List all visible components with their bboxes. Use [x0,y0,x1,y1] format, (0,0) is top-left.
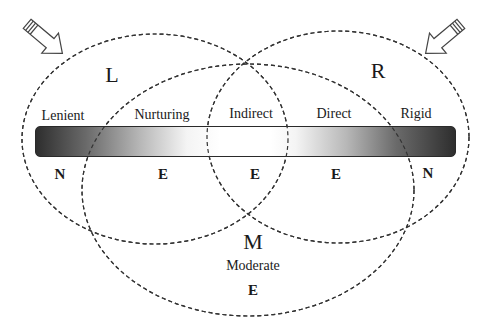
spectrum-label-indirect: Indirect [229,107,273,121]
spectrum-code-nurturing: E [158,167,168,182]
set-label-r: R [371,60,386,82]
spectrum-code-rigid: N [423,166,434,181]
venn-diagram: L R M Moderate E Lenient Nurturing Indir… [0,0,487,330]
moderate-label: Moderate [226,259,280,273]
diagram-canvas [0,0,487,330]
set-label-l: L [105,64,118,86]
spectrum-bar [35,126,456,157]
spectrum-code-direct: E [331,167,341,182]
arrow-down-left-icon [417,14,469,63]
moderate-code: E [248,283,258,298]
spectrum-label-rigid: Rigid [400,107,431,121]
spectrum-label-nurturing: Nurturing [134,108,189,122]
spectrum-label-direct: Direct [317,107,352,121]
set-m-ellipse [82,64,414,316]
arrow-down-right-icon [19,14,71,63]
spectrum-label-lenient: Lenient [42,109,85,123]
spectrum-code-lenient: N [55,167,66,182]
set-label-m: M [243,231,263,253]
spectrum-code-indirect: E [250,167,260,182]
